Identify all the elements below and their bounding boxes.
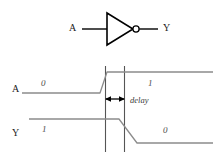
schematic-input-label: A — [69, 23, 76, 33]
inversion-bubble-icon — [133, 26, 139, 32]
delay-double-arrow — [105, 96, 125, 102]
figure-canvas: A Y A 0 1 delay Y 1 0 — [0, 0, 221, 160]
signal-label-y: Y — [12, 128, 19, 138]
schematic-layer — [0, 0, 221, 160]
signal-a-value-after: 1 — [148, 79, 153, 88]
schematic-output-label: Y — [163, 23, 170, 33]
waveform-y — [29, 119, 213, 143]
delay-label: delay — [130, 96, 148, 105]
waveform-a — [22, 72, 213, 93]
signal-y-value-before: 1 — [42, 125, 47, 134]
signal-a-value-before: 0 — [41, 79, 46, 88]
signal-label-a: A — [12, 84, 19, 94]
signal-y-value-after: 0 — [163, 126, 168, 135]
inverter-triangle — [107, 13, 133, 45]
